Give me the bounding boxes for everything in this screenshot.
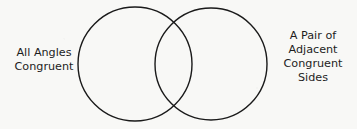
right-circle-label-line-3: Congruent bbox=[274, 57, 352, 71]
right-circle bbox=[155, 8, 267, 120]
left-circle bbox=[78, 7, 192, 121]
left-circle-label-line-1: All Angles bbox=[8, 46, 80, 60]
venn-diagram: All Angles Congruent A Pair of Adjacent … bbox=[0, 0, 357, 129]
right-circle-label-line-2: Adjacent bbox=[274, 43, 352, 57]
right-circle-label-line-1: A Pair of bbox=[274, 29, 352, 43]
left-circle-label: All Angles Congruent bbox=[8, 46, 80, 74]
right-circle-label-line-4: Sides bbox=[274, 71, 352, 85]
left-circle-label-line-2: Congruent bbox=[8, 60, 80, 74]
right-circle-label: A Pair of Adjacent Congruent Sides bbox=[274, 29, 352, 85]
